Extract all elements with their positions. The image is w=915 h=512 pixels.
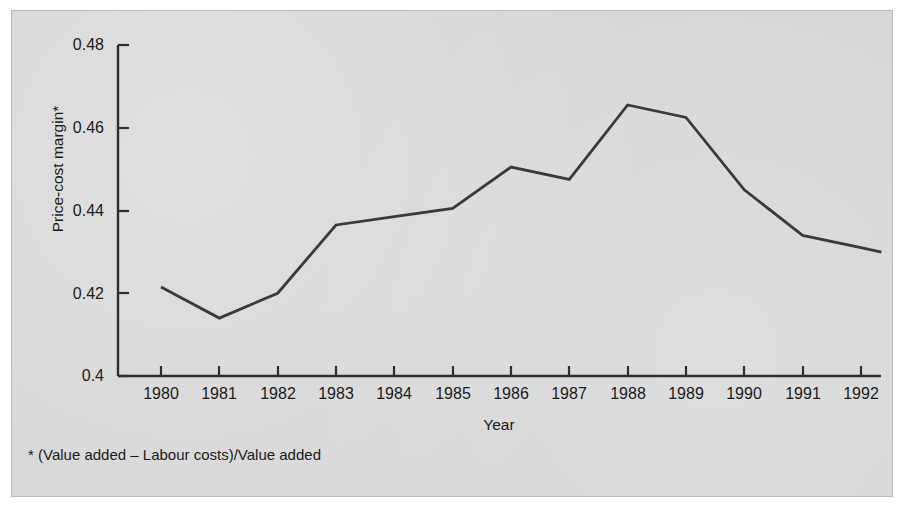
x-tick-label-1986: 1986 [481,386,541,402]
x-tick-label-1992: 1992 [831,386,891,402]
x-tick-label-1990: 1990 [714,386,774,402]
x-tick-label-1991: 1991 [773,386,833,402]
x-tick-label-1987: 1987 [539,386,599,402]
y-axis-ticks [118,45,129,376]
x-axis-title: Year [118,416,880,434]
x-tick-label-1981: 1981 [189,386,249,402]
x-tick-label-1984: 1984 [364,386,424,402]
x-tick-label-1985: 1985 [423,386,483,402]
plot-area: Price-cost margin* 0.48 0.46 0.44 0.42 0… [0,0,915,512]
data-series-line [161,105,881,318]
footnote-text: * (Value added – Labour costs)/Value add… [28,446,321,463]
x-axis-ticks [161,366,861,376]
x-tick-label-1983: 1983 [306,386,366,402]
x-tick-label-1988: 1988 [598,386,658,402]
chart-svg [0,0,915,512]
x-tick-label-1982: 1982 [248,386,308,402]
x-tick-label-1989: 1989 [656,386,716,402]
figure-container: Price-cost margin* 0.48 0.46 0.44 0.42 0… [0,0,915,512]
x-tick-label-1980: 1980 [131,386,191,402]
